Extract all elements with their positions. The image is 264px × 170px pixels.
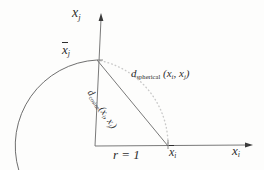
axis-j-arrowhead (99, 13, 104, 21)
axis-i-arrowhead (245, 143, 253, 148)
axis-label-xi: xi (232, 144, 240, 157)
point-label-xbar-j: xj (62, 42, 70, 57)
distance-diagram (0, 0, 264, 170)
unit-circle-arc (15, 60, 97, 170)
point-label-xbar-i: xi (169, 145, 176, 159)
axis-j-line (95, 19, 101, 146)
label-radius: r = 1 (113, 148, 140, 161)
axis-label-xj: xj (72, 6, 81, 20)
label-d-spherical: dspherical (xi, xj) (131, 68, 189, 79)
